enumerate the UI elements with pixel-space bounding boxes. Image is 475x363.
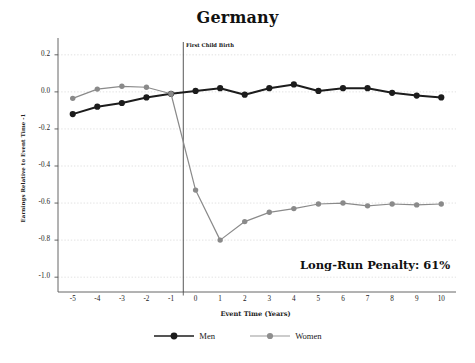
x-tick-label: 3 <box>257 295 281 303</box>
x-tick-label: 10 <box>429 295 453 303</box>
data-point-men[interactable] <box>438 94 444 100</box>
legend-marker-men <box>153 330 195 342</box>
x-tick-label: 4 <box>282 295 306 303</box>
data-point-men[interactable] <box>315 88 321 94</box>
data-point-men[interactable] <box>192 88 198 94</box>
legend-item-men[interactable]: Men <box>153 330 215 342</box>
legend-label-women: Women <box>295 331 322 341</box>
y-tick-label: -0.2 <box>24 124 50 132</box>
data-point-women[interactable] <box>439 201 444 206</box>
x-tick-label: -4 <box>85 295 109 303</box>
data-point-women[interactable] <box>267 210 272 215</box>
data-point-women[interactable] <box>95 86 100 91</box>
x-tick-label: 1 <box>208 295 232 303</box>
data-point-men[interactable] <box>94 104 100 110</box>
y-tick-label: -1.0 <box>24 272 50 280</box>
legend-item-women[interactable]: Women <box>249 330 322 342</box>
y-tick-label: 0.2 <box>24 50 50 58</box>
data-point-women[interactable] <box>193 187 198 192</box>
data-point-women[interactable] <box>365 203 370 208</box>
data-point-women[interactable] <box>242 219 247 224</box>
data-point-men[interactable] <box>414 92 420 98</box>
x-tick-label: 8 <box>380 295 404 303</box>
data-point-women[interactable] <box>414 202 419 207</box>
data-point-men[interactable] <box>389 90 395 96</box>
data-point-men[interactable] <box>70 111 76 117</box>
x-tick-label: 7 <box>356 295 380 303</box>
data-point-women[interactable] <box>217 237 222 242</box>
data-point-men[interactable] <box>340 85 346 91</box>
x-tick-label: -5 <box>61 295 85 303</box>
data-point-women[interactable] <box>168 91 173 96</box>
data-point-men[interactable] <box>119 100 125 106</box>
x-tick-label: -2 <box>134 295 158 303</box>
x-tick-label: 0 <box>184 295 208 303</box>
data-point-men[interactable] <box>266 85 272 91</box>
x-tick-label: 2 <box>233 295 257 303</box>
y-tick-label: -0.8 <box>24 235 50 243</box>
x-tick-label: -3 <box>110 295 134 303</box>
data-point-women[interactable] <box>316 201 321 206</box>
chart-canvas <box>0 0 475 363</box>
data-point-women[interactable] <box>144 85 149 90</box>
data-point-women[interactable] <box>389 201 394 206</box>
data-point-men[interactable] <box>291 81 297 87</box>
data-point-women[interactable] <box>340 200 345 205</box>
data-point-men[interactable] <box>364 85 370 91</box>
x-tick-label: 5 <box>306 295 330 303</box>
y-tick-label: -0.4 <box>24 161 50 169</box>
data-point-women[interactable] <box>291 206 296 211</box>
data-point-men[interactable] <box>217 85 223 91</box>
legend-marker-women <box>249 330 291 342</box>
data-point-men[interactable] <box>242 92 248 98</box>
x-tick-label: -1 <box>159 295 183 303</box>
data-point-women[interactable] <box>119 84 124 89</box>
x-tick-label: 9 <box>405 295 429 303</box>
series-line-men <box>73 84 442 114</box>
y-tick-label: -0.6 <box>24 198 50 206</box>
data-point-women[interactable] <box>70 96 75 101</box>
x-tick-label: 6 <box>331 295 355 303</box>
y-tick-label: 0.0 <box>24 87 50 95</box>
data-point-men[interactable] <box>143 94 149 100</box>
legend-label-men: Men <box>199 331 215 341</box>
series-line-women <box>73 86 442 240</box>
chart-legend: Men Women <box>0 330 475 342</box>
